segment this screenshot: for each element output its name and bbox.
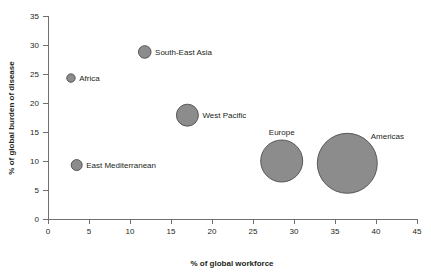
x-tick-label: 30: [290, 227, 299, 236]
y-tick-label: 15: [30, 128, 39, 137]
bubble-chart-figure: 05101520253035404505101520253035 AfricaS…: [0, 0, 431, 277]
bubble-west-pacific: [176, 104, 198, 126]
x-tick-label: 5: [87, 227, 92, 236]
bubble-east-mediterranean: [71, 160, 82, 171]
bubble-africa: [67, 74, 75, 82]
x-tick-label: 25: [249, 227, 258, 236]
bubble-label-east-mediterranean: East Mediterranean: [86, 161, 156, 170]
x-tick-label: 0: [46, 227, 51, 236]
bubble-americas: [317, 133, 377, 193]
y-tick-label: 0: [35, 215, 40, 224]
x-axis-title: % of global workforce: [190, 259, 274, 268]
chart-canvas: 05101520253035404505101520253035 AfricaS…: [0, 0, 431, 277]
bubble-south-east-asia: [138, 46, 151, 59]
bubble-label-west-pacific: West Pacific: [202, 111, 246, 120]
y-tick-label: 10: [30, 157, 39, 166]
bubble-label-south-east-asia: South-East Asia: [155, 48, 212, 57]
x-tick-label: 35: [331, 227, 340, 236]
y-tick-label: 20: [30, 99, 39, 108]
y-axis-title: % of global burden of disease: [7, 61, 16, 175]
y-tick-label: 25: [30, 70, 39, 79]
y-tick-label: 30: [30, 41, 39, 50]
y-tick-label: 35: [30, 12, 39, 21]
x-tick-label: 15: [167, 227, 176, 236]
bubble-europe: [261, 140, 303, 182]
y-tick-label: 5: [35, 186, 40, 195]
axis-tick-labels: 05101520253035404505101520253035: [30, 12, 422, 236]
x-tick-label: 45: [413, 227, 422, 236]
bubble-label-europe: Europe: [269, 128, 295, 137]
x-tick-label: 20: [208, 227, 217, 236]
x-tick-label: 40: [372, 227, 381, 236]
x-tick-label: 10: [126, 227, 135, 236]
bubble-label-africa: Africa: [79, 74, 100, 83]
bubble-label-americas: Americas: [371, 132, 404, 141]
